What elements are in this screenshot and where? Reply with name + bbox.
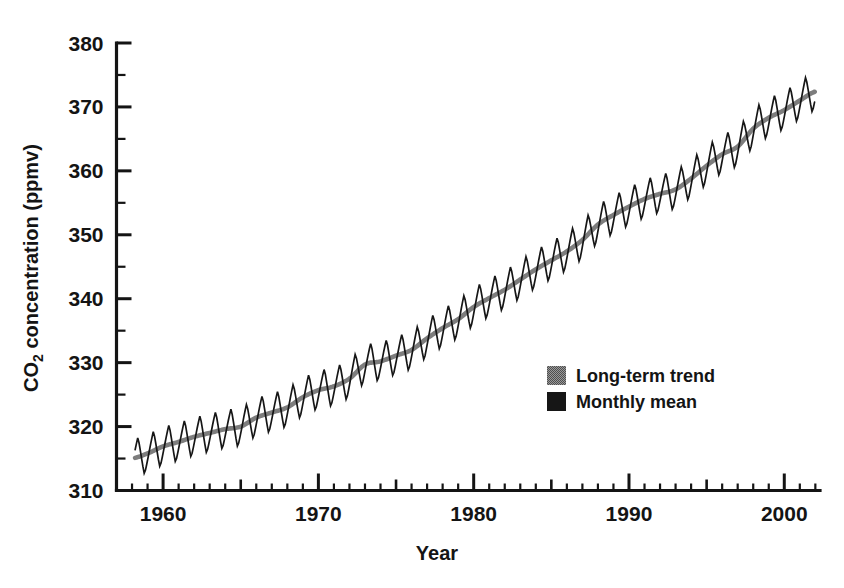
y-tick-label: 320 bbox=[68, 415, 103, 438]
y-tick-label: 370 bbox=[68, 95, 103, 118]
y-tick-label: 340 bbox=[68, 287, 103, 310]
chart-background bbox=[0, 0, 844, 588]
y-tick-label: 330 bbox=[68, 351, 103, 374]
y-axis-title-rest: concentration (ppmv) bbox=[20, 144, 42, 348]
x-axis-title: Year bbox=[416, 542, 458, 564]
legend-label-long-term-trend: Long-term trend bbox=[576, 366, 715, 386]
y-tick-label: 380 bbox=[68, 32, 103, 55]
y-axis-title-prefix: CO bbox=[20, 362, 42, 392]
y-tick-label: 310 bbox=[68, 479, 103, 502]
legend-label-monthly-mean: Monthly mean bbox=[576, 392, 697, 412]
x-tick-label: 1970 bbox=[295, 502, 342, 525]
co2-concentration-chart: 310320330340350360370380 196019701980199… bbox=[0, 0, 844, 588]
x-tick-label: 2000 bbox=[761, 502, 808, 525]
legend-swatch-monthly-mean bbox=[547, 392, 566, 411]
legend-swatch-long-term-trend bbox=[547, 366, 566, 385]
y-axis-title-subscript: 2 bbox=[30, 354, 46, 362]
x-tick-label: 1990 bbox=[606, 502, 653, 525]
y-tick-label: 360 bbox=[68, 159, 103, 182]
y-tick-label: 350 bbox=[68, 223, 103, 246]
x-tick-label: 1980 bbox=[450, 502, 497, 525]
x-tick-label: 1960 bbox=[140, 502, 187, 525]
